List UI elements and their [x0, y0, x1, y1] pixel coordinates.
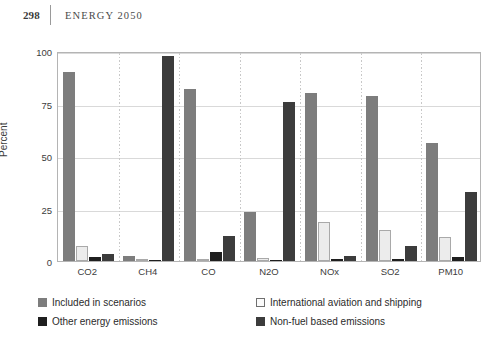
bar-group: [119, 53, 180, 261]
legend-label: Included in scenarios: [52, 297, 146, 308]
bar: [244, 212, 256, 261]
x-tick-label: CO: [201, 266, 215, 277]
bar-group: [240, 53, 301, 261]
x-tick-label: PM10: [438, 266, 463, 277]
plot-area: [57, 52, 481, 262]
x-tick-label: N2O: [259, 266, 279, 277]
bar: [344, 256, 356, 261]
bar: [123, 256, 135, 261]
bar: [197, 259, 209, 261]
bar: [331, 259, 343, 261]
bar: [149, 260, 161, 261]
y-tick-label: 75: [6, 99, 52, 110]
bar: [210, 252, 222, 261]
bar: [405, 246, 417, 261]
bar: [426, 143, 438, 261]
bar: [76, 246, 88, 261]
y-tick-label: 0: [6, 257, 52, 268]
bar: [283, 102, 295, 261]
x-tick-label: NOx: [320, 266, 339, 277]
bar: [366, 96, 378, 261]
legend-label: Other energy emissions: [52, 316, 158, 327]
bar-group: [179, 53, 240, 261]
bar: [184, 89, 196, 261]
bar: [63, 72, 75, 261]
legend-swatch-icon: [38, 317, 47, 326]
bar: [89, 257, 101, 261]
x-tick-label: CH4: [138, 266, 157, 277]
bar: [136, 259, 148, 261]
bar: [305, 93, 317, 261]
bar: [318, 222, 330, 261]
bar: [465, 192, 477, 261]
legend-swatch-icon: [38, 298, 47, 307]
bar: [270, 260, 282, 261]
page-number: 298: [0, 9, 50, 21]
y-tick-label: 100: [6, 47, 52, 58]
x-tick-label: SO2: [381, 266, 400, 277]
bar: [439, 237, 451, 261]
bar-group: [361, 53, 422, 261]
bar-group: [421, 53, 482, 261]
legend-item: Non-fuel based emissions: [256, 316, 478, 327]
legend-label: Non-fuel based emissions: [270, 316, 385, 327]
bar: [379, 230, 391, 262]
bar: [162, 56, 174, 261]
x-tick-label: CO2: [78, 266, 98, 277]
legend-item: International aviation and shipping: [256, 297, 478, 308]
legend-swatch-icon: [256, 317, 265, 326]
running-title: ENERGY 2050: [51, 10, 143, 21]
chart-legend: Included in scenariosInternational aviat…: [38, 293, 478, 331]
legend-item: Other energy emissions: [38, 316, 256, 327]
y-tick-label: 25: [6, 204, 52, 215]
bar-group: [300, 53, 361, 261]
bar-group: [58, 53, 119, 261]
bar-chart-figure: Percent 0255075100 CO2CH4CON2ONOxSO2PM10…: [0, 30, 492, 348]
bar: [392, 259, 404, 261]
y-tick-label: 50: [6, 152, 52, 163]
bar: [223, 236, 235, 261]
legend-label: International aviation and shipping: [270, 297, 422, 308]
page-running-header: 298 ENERGY 2050: [0, 0, 492, 30]
bar: [452, 257, 464, 261]
legend-swatch-icon: [256, 298, 265, 307]
bar: [257, 258, 269, 261]
bar: [102, 254, 114, 261]
legend-item: Included in scenarios: [38, 297, 256, 308]
